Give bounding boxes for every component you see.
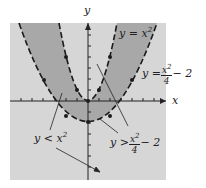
label-region1: y < x2 — [34, 131, 67, 145]
label-curve2: y =x24− 2 — [142, 62, 192, 86]
x-axis-label: x — [172, 94, 178, 107]
label-curve1: y = x2 — [119, 26, 152, 40]
label-region2: y >x24− 2 — [110, 131, 160, 155]
y-axis-label: y — [84, 4, 90, 17]
